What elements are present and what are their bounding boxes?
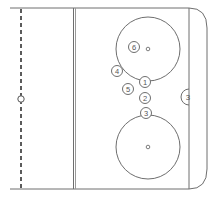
hockey-rink-diagram: 3 6 4 1 5 2 3 [0, 0, 219, 197]
crease-label: 3 [186, 93, 191, 102]
svg-text:1: 1 [143, 78, 147, 87]
svg-text:5: 5 [126, 85, 130, 94]
center-faceoff-dot [18, 96, 24, 102]
rink-boards [10, 8, 207, 189]
faceoff-dot-top [146, 47, 150, 51]
player-marker-6: 6 [129, 42, 140, 53]
player-marker-1: 1 [140, 77, 151, 88]
svg-text:4: 4 [115, 67, 119, 76]
svg-text:2: 2 [143, 94, 147, 103]
svg-text:3: 3 [144, 109, 148, 118]
player-marker-3: 3 [141, 108, 152, 119]
player-marker-2: 2 [140, 93, 151, 104]
player-marker-4: 4 [112, 66, 123, 77]
faceoff-dot-bottom [146, 145, 150, 149]
svg-text:6: 6 [132, 43, 136, 52]
player-marker-5: 5 [123, 84, 134, 95]
